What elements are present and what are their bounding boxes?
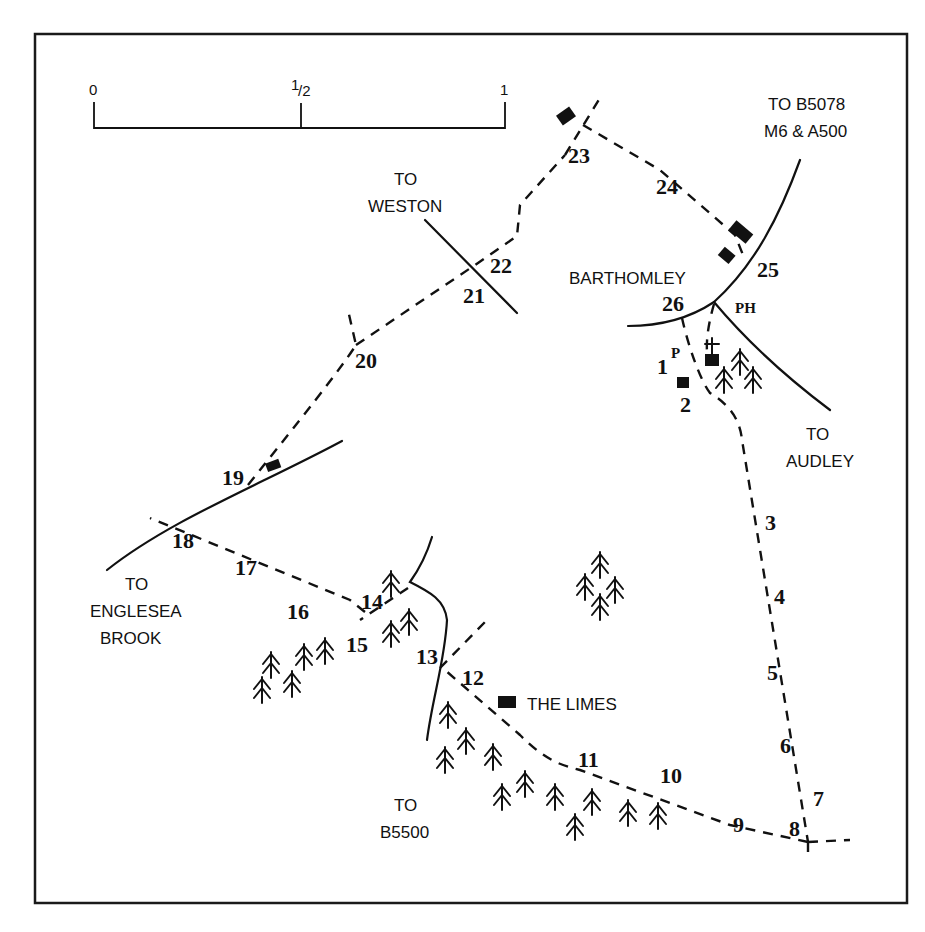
svg-text:26: 26	[662, 291, 684, 316]
svg-text:21: 21	[463, 283, 485, 308]
road-to-audley	[714, 302, 830, 410]
woodland-trees	[254, 349, 761, 840]
svg-text:BROOK: BROOK	[100, 629, 162, 648]
parking-label: P	[671, 345, 680, 361]
svg-text:19: 19	[222, 465, 244, 490]
svg-text:TO: TO	[394, 796, 417, 815]
svg-text:B5500: B5500	[380, 823, 429, 842]
svg-text:24: 24	[656, 174, 678, 199]
scale-label-0: 0	[89, 81, 97, 98]
svg-text:22: 22	[490, 253, 512, 278]
svg-text:17: 17	[235, 555, 257, 580]
svg-text:TO B5078: TO B5078	[768, 95, 845, 114]
scale-label-1: 1	[500, 81, 508, 98]
scale-bar: 0 1 /2 1	[89, 76, 508, 128]
svg-text:12: 12	[462, 665, 484, 690]
svg-text:25: 25	[757, 257, 779, 282]
svg-text:3: 3	[765, 510, 776, 535]
svg-text:9: 9	[733, 812, 744, 837]
roads	[107, 160, 830, 740]
scale-label-half: /2	[298, 82, 311, 99]
svg-text:M6 & A500: M6 & A500	[764, 122, 847, 141]
svg-text:14: 14	[361, 589, 383, 614]
route-map: 0 1 /2 1	[0, 0, 925, 932]
svg-text:AUDLEY: AUDLEY	[786, 452, 854, 471]
svg-text:18: 18	[172, 528, 194, 553]
road-to-englesea	[107, 441, 342, 570]
svg-text:TO: TO	[394, 170, 417, 189]
svg-text:8: 8	[789, 816, 800, 841]
svg-text:16: 16	[287, 599, 309, 624]
svg-text:TO: TO	[125, 575, 148, 594]
road-to-b5500	[410, 537, 447, 740]
svg-text:TO: TO	[806, 425, 829, 444]
road-labels: TO B5078 M6 & A500 TO WESTON TO AUDLEY T…	[90, 95, 854, 842]
svg-text:WESTON: WESTON	[368, 197, 442, 216]
svg-text:10: 10	[660, 763, 682, 788]
svg-text:20: 20	[355, 348, 377, 373]
svg-text:11: 11	[578, 747, 599, 772]
svg-text:ENGLESEA: ENGLESEA	[90, 602, 182, 621]
map-frame	[35, 34, 907, 903]
svg-text:13: 13	[416, 644, 438, 669]
svg-text:15: 15	[346, 632, 368, 657]
svg-text:2: 2	[680, 392, 691, 417]
place-the-limes: THE LIMES	[527, 695, 617, 714]
svg-text:23: 23	[568, 143, 590, 168]
footpath-route	[150, 98, 850, 860]
svg-text:5: 5	[767, 660, 778, 685]
svg-text:6: 6	[780, 733, 791, 758]
svg-text:1: 1	[657, 354, 668, 379]
svg-text:4: 4	[774, 584, 785, 609]
waypoint-numbers: 1 2 3 4 5 6 7 8 9 10 11 12 13 14 15 16 1…	[172, 143, 824, 841]
pub-label: PH	[735, 300, 756, 316]
svg-text:7: 7	[813, 786, 824, 811]
place-barthomley: BARTHOMLEY	[569, 269, 686, 288]
